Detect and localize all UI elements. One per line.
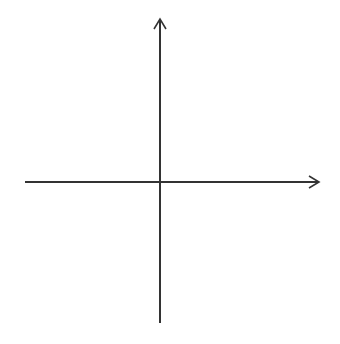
coordinate-plane [0, 0, 340, 344]
